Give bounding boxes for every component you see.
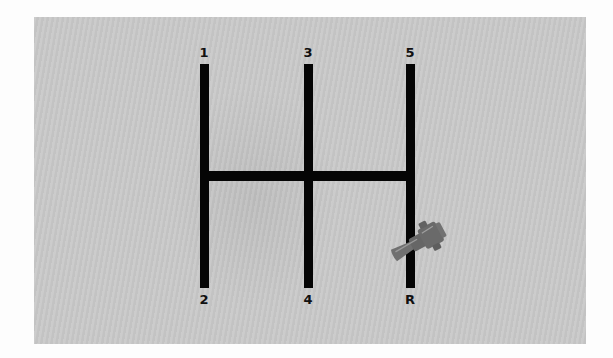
gate-neutral-channel bbox=[200, 171, 415, 181]
gear-label-5: 5 bbox=[400, 46, 420, 60]
gear-label-3: 3 bbox=[298, 46, 318, 60]
gear-label-1: 1 bbox=[194, 46, 214, 60]
gear-shift-knob[interactable] bbox=[388, 218, 448, 264]
gear-label-2: 2 bbox=[194, 293, 214, 307]
gear-label-r: R bbox=[400, 293, 420, 307]
gear-label-4: 4 bbox=[298, 293, 318, 307]
gear-shift-knob-icon bbox=[388, 218, 448, 264]
game-stage: 1 3 5 2 4 R bbox=[0, 0, 613, 358]
